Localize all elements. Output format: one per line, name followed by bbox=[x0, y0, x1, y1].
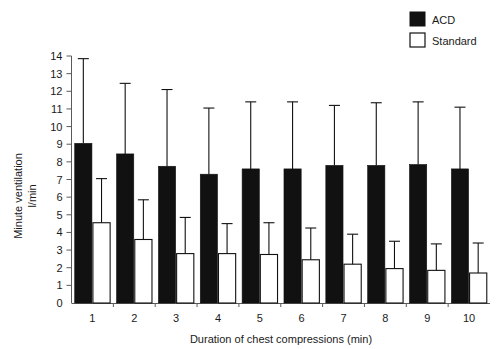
bar-acd bbox=[410, 165, 427, 303]
x-tick-label: 5 bbox=[257, 312, 263, 324]
x-tick-label: 1 bbox=[89, 312, 95, 324]
legend-label-standard: Standard bbox=[432, 35, 477, 47]
y-tick-label: 3 bbox=[56, 244, 62, 256]
y-tick-label: 0 bbox=[56, 297, 62, 309]
x-tick-label: 8 bbox=[382, 312, 388, 324]
x-tick-label: 9 bbox=[424, 312, 430, 324]
bar-standard bbox=[302, 260, 319, 303]
legend-swatch-acd bbox=[410, 12, 425, 26]
x-tick-label: 4 bbox=[215, 312, 221, 324]
bar-standard bbox=[260, 254, 277, 303]
y-axis-title-line2: l/min bbox=[26, 184, 38, 207]
y-tick-label: 6 bbox=[56, 191, 62, 203]
y-tick-label: 11 bbox=[51, 103, 62, 115]
bar-standard bbox=[428, 270, 445, 303]
x-tick-label: 7 bbox=[340, 312, 346, 324]
bar-standard bbox=[386, 269, 403, 303]
chart-figure: ACD Standard 01234567891011121314 Minute… bbox=[0, 0, 504, 349]
bar-acd bbox=[368, 165, 385, 303]
bar-acd bbox=[284, 169, 301, 303]
y-tick-label: 9 bbox=[56, 138, 62, 150]
y-tick-label: 14 bbox=[50, 50, 62, 62]
bar-acd bbox=[326, 165, 343, 303]
bar-standard bbox=[344, 264, 361, 303]
bar-standard bbox=[93, 223, 110, 303]
y-tick-label: 4 bbox=[56, 226, 62, 238]
y-tick-label: 12 bbox=[50, 85, 62, 97]
y-tick-label: 10 bbox=[50, 121, 62, 133]
legend-label-acd: ACD bbox=[432, 14, 455, 26]
x-tick-label: 10 bbox=[463, 312, 475, 324]
bar-standard bbox=[135, 239, 152, 303]
legend-swatch-standard bbox=[410, 33, 425, 47]
x-tick-label: 2 bbox=[131, 312, 137, 324]
x-tick-label: 6 bbox=[299, 312, 305, 324]
y-tick-label: 7 bbox=[56, 174, 62, 186]
bar-standard bbox=[218, 254, 235, 303]
bar-standard bbox=[177, 254, 194, 303]
y-axis-title-line1: Minute ventilation bbox=[12, 153, 24, 239]
x-axis-title: Duration of chest compressions (min) bbox=[190, 333, 372, 345]
y-tick-label: 13 bbox=[50, 68, 62, 80]
bar-acd bbox=[242, 169, 259, 303]
y-tick-label: 8 bbox=[56, 156, 62, 168]
y-tick-label: 2 bbox=[56, 262, 62, 274]
bar-acd bbox=[158, 166, 175, 303]
bar-acd bbox=[200, 174, 217, 303]
y-tick-label: 1 bbox=[56, 279, 62, 291]
x-tick-label: 3 bbox=[173, 312, 179, 324]
bar-acd bbox=[75, 143, 92, 303]
grouped-bar-chart: ACD Standard 01234567891011121314 Minute… bbox=[0, 0, 504, 349]
bar-acd bbox=[451, 169, 468, 303]
bar-acd bbox=[117, 154, 134, 303]
y-tick-label: 5 bbox=[56, 209, 62, 221]
bar-standard bbox=[470, 273, 487, 303]
